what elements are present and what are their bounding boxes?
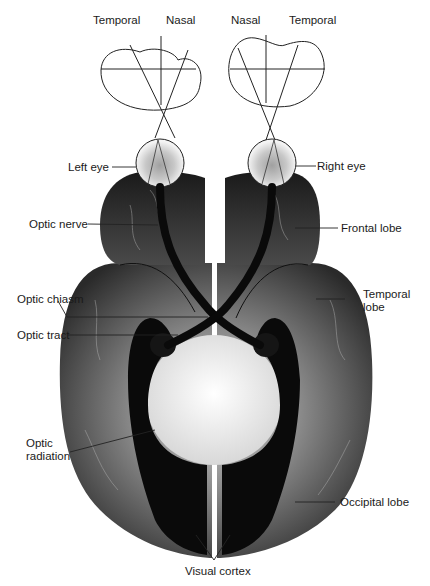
label-nasal-right: Nasal bbox=[231, 14, 260, 27]
label-occipital-lobe: Occipital lobe bbox=[340, 496, 409, 509]
label-visual-cortex: Visual cortex bbox=[185, 565, 251, 578]
visual-field-right bbox=[229, 35, 325, 140]
label-left-eye: Left eye bbox=[68, 161, 109, 174]
left-eye bbox=[136, 139, 184, 187]
label-optic-chiasm: Optic chiasm bbox=[17, 293, 83, 306]
label-optic-nerve: Optic nerve bbox=[29, 218, 88, 231]
brain bbox=[60, 170, 373, 560]
label-optic-radiation-line2: radiation bbox=[26, 450, 70, 463]
visual-field-left bbox=[101, 36, 201, 138]
label-temporal-lobe-line1: Temporal bbox=[363, 288, 410, 301]
label-right-eye: Right eye bbox=[317, 160, 366, 173]
label-temporal-lobe-line2: lobe bbox=[363, 301, 385, 314]
right-eye bbox=[248, 139, 296, 187]
label-temporal-left: Temporal bbox=[93, 14, 140, 27]
label-optic-radiation-line1: Optic bbox=[26, 437, 53, 450]
label-nasal-left: Nasal bbox=[166, 14, 195, 27]
label-temporal-right: Temporal bbox=[289, 14, 336, 27]
label-frontal-lobe: Frontal lobe bbox=[341, 222, 402, 235]
label-optic-tract: Optic tract bbox=[17, 329, 69, 342]
